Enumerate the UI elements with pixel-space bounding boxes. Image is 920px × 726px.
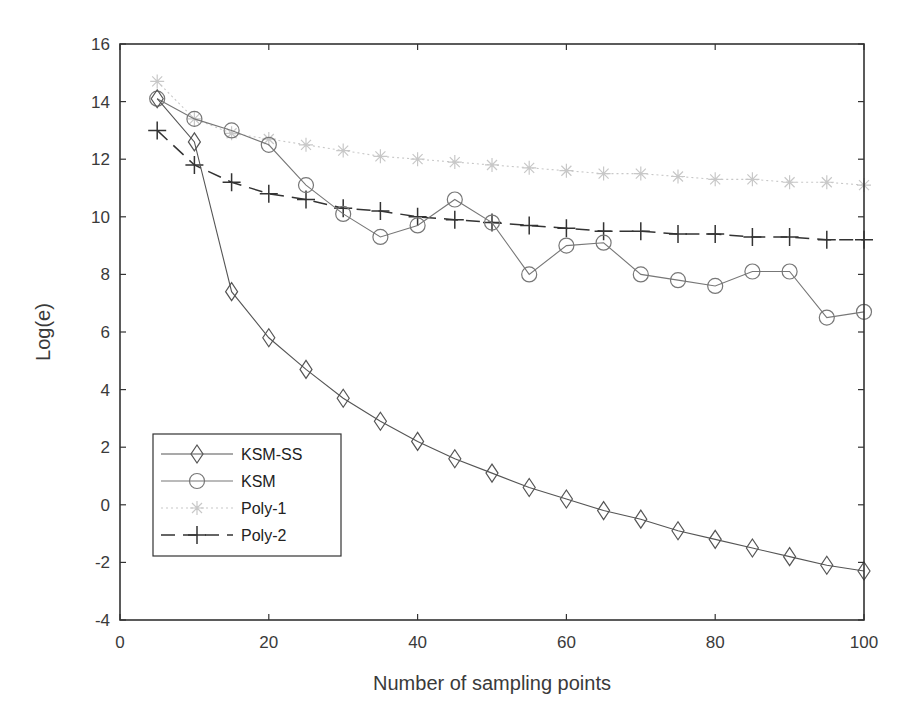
x-tick-label: 80	[706, 633, 725, 652]
plus-marker	[223, 173, 241, 191]
axes: 020406080100-4-20246810121416	[91, 35, 878, 652]
plus-marker	[297, 191, 315, 209]
star-marker	[820, 175, 834, 189]
plus-marker	[371, 202, 389, 220]
plus-marker	[260, 185, 278, 203]
series-line	[157, 99, 864, 318]
legend-label: Poly-2	[241, 527, 286, 544]
legend: KSM-SSKSMPoly-1Poly-2	[153, 434, 341, 556]
y-tick-label: 6	[101, 323, 110, 342]
star-marker	[559, 164, 573, 178]
y-tick-label: 16	[91, 35, 110, 54]
plus-marker	[669, 225, 687, 243]
y-tick-label: 8	[101, 265, 110, 284]
y-tick-label: 14	[91, 93, 110, 112]
x-tick-label: 100	[850, 633, 878, 652]
star-marker	[783, 175, 797, 189]
star-marker	[299, 138, 313, 152]
plus-marker	[743, 228, 761, 246]
y-tick-label: 10	[91, 208, 110, 227]
plus-marker	[595, 222, 613, 240]
x-tick-label: 60	[557, 633, 576, 652]
star-marker	[634, 167, 648, 181]
star-marker	[336, 144, 350, 158]
series-poly-1	[150, 74, 871, 192]
plus-marker	[409, 208, 427, 226]
y-tick-label: -4	[95, 611, 110, 630]
plus-marker	[446, 211, 464, 229]
y-tick-label: 2	[101, 438, 110, 457]
y-tick-label: -2	[95, 553, 110, 572]
legend-label: KSM	[241, 473, 276, 490]
plus-marker	[557, 219, 575, 237]
star-marker	[671, 169, 685, 183]
star-marker	[448, 155, 462, 169]
star-marker	[190, 501, 204, 515]
x-tick-label: 20	[259, 633, 278, 652]
y-tick-label: 4	[101, 381, 110, 400]
plus-marker	[781, 228, 799, 246]
x-tick-label: 0	[115, 633, 124, 652]
plus-marker	[706, 225, 724, 243]
plus-marker	[185, 156, 203, 174]
plus-marker	[520, 216, 538, 234]
series-line	[157, 81, 864, 185]
star-marker	[708, 172, 722, 186]
star-marker	[373, 149, 387, 163]
line-chart: 020406080100-4-20246810121416 Number of …	[0, 0, 920, 726]
y-tick-label: 12	[91, 150, 110, 169]
star-marker	[411, 152, 425, 166]
star-marker	[150, 74, 164, 88]
legend-label: KSM-SS	[241, 446, 302, 463]
star-marker	[745, 172, 759, 186]
star-marker	[485, 158, 499, 172]
series-line	[157, 130, 864, 239]
x-tick-label: 40	[408, 633, 427, 652]
x-axis-title: Number of sampling points	[373, 672, 611, 694]
series-ksm	[150, 91, 872, 325]
star-marker	[522, 161, 536, 175]
plus-marker	[632, 222, 650, 240]
y-tick-label: 0	[101, 496, 110, 515]
y-axis-title: Log(e)	[32, 303, 54, 361]
legend-label: Poly-1	[241, 500, 286, 517]
plus-marker	[818, 231, 836, 249]
star-marker	[597, 167, 611, 181]
